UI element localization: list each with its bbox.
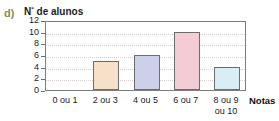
- item-letter: d): [4, 7, 14, 19]
- x-axis-tick-label: 0 ou 1: [45, 95, 85, 106]
- x-axis-tick-label: 4 ou 5: [125, 95, 165, 106]
- x-axis-tick-label: 6 ou 7: [166, 95, 206, 106]
- y-axis-tick-label: 10: [20, 28, 39, 37]
- x-axis-tick-label: 8 ou 9 ou 10: [206, 95, 246, 116]
- bar: [134, 55, 160, 90]
- y-axis-tick-label: 6: [20, 51, 39, 60]
- bar: [93, 61, 119, 90]
- y-axis-tick: [41, 44, 45, 45]
- y-axis-tick-label: 2: [20, 74, 39, 83]
- gridline: [46, 34, 245, 35]
- bar: [214, 67, 240, 90]
- bar: [174, 32, 200, 90]
- y-axis-tick: [41, 91, 45, 92]
- y-axis-title-rest: de alunos: [34, 6, 83, 17]
- y-axis-tick-label: 8: [20, 39, 39, 48]
- y-axis-tick: [41, 33, 45, 34]
- y-axis-tick: [41, 21, 45, 22]
- chart-container: d) Nº de alunos 024681012 0 ou 12 ou 34 …: [0, 0, 279, 121]
- x-axis-tick-label: 2 ou 3: [85, 95, 125, 106]
- x-axis-title: Notas: [249, 95, 275, 106]
- y-axis-tick: [41, 68, 45, 69]
- gridline: [46, 45, 245, 46]
- y-axis-tick-label: 4: [20, 63, 39, 72]
- y-axis-tick: [41, 79, 45, 80]
- y-axis-tick-label: 12: [20, 16, 39, 25]
- plot-area: [45, 21, 246, 91]
- y-axis-tick-label: 0: [20, 86, 39, 95]
- y-axis-tick: [41, 56, 45, 57]
